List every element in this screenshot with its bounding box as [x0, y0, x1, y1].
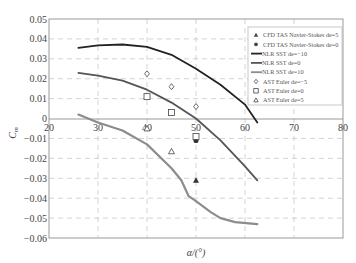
legend-item: AST Euler de=−5 [254, 78, 307, 85]
x-axis-label: α/(°) [187, 247, 206, 259]
y-tick-label: −0.03 [24, 173, 47, 184]
legend-label: CFD TAS Navier-Stokes de=5 [263, 31, 338, 38]
legend-item: CFD TAS Navier-Stokes de=5 [254, 31, 339, 38]
legend-label: NLR SST de=0 [262, 59, 300, 66]
legend-label: NLR SST de=−10 [262, 50, 307, 57]
y-tick-label: 0.05 [30, 14, 48, 25]
x-tick-label: 80 [338, 122, 348, 133]
series-ast-euler-de-5 [145, 71, 199, 110]
legend-label: AST Euler de=0 [263, 87, 304, 94]
y-tick-label: −0.06 [24, 233, 47, 244]
x-tick-label: 50 [191, 122, 201, 133]
legend-label: CFD TAS Navier-Stokes de=0 [263, 41, 338, 48]
y-tick-label: 0.01 [30, 93, 48, 104]
legend-label: AST Euler de=−5 [263, 78, 307, 85]
x-tick-label: 70 [289, 122, 299, 133]
cm-vs-alpha-chart: 0.050.040.030.020.010−0.01−0.02−0.03−0.0… [0, 0, 356, 263]
x-tick-label: 20 [44, 122, 54, 133]
legend-label: NLR SST de=10 [262, 68, 304, 75]
data-series [78, 45, 257, 225]
y-tick-label: −0.05 [24, 213, 47, 224]
y-axis-label: Cm [7, 127, 20, 139]
legend-label: AST Euler de=5 [263, 96, 304, 103]
series-nlr-sst-de-10 [78, 45, 257, 123]
y-tick-label: 0.03 [30, 53, 48, 64]
x-axis-ticks: 20304050607080 [44, 122, 348, 133]
legend: CFD TAS Navier-Stokes de=5CFD TAS Navier… [248, 27, 342, 105]
series-ast-euler-de-5 [144, 126, 175, 154]
y-tick-label: −0.04 [24, 193, 47, 204]
x-tick-label: 60 [240, 122, 250, 133]
y-tick-label: 0.04 [30, 33, 48, 44]
y-tick-label: 0.02 [30, 73, 48, 84]
series-nlr-sst-de-10 [78, 115, 257, 225]
legend-item: CFD TAS Navier-Stokes de=0 [254, 41, 338, 48]
y-tick-label: −0.02 [24, 153, 47, 164]
y-tick-label: −0.01 [24, 133, 47, 144]
